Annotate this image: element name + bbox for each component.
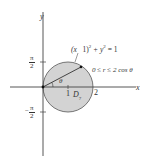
angle-theta-label: θ <box>59 78 62 85</box>
diagram-canvas <box>0 0 150 156</box>
equation-plus-y: + y <box>91 45 103 54</box>
x-tick-label-2: 2 <box>94 89 98 97</box>
y-tick-label-neg-pi-over-2: π 2 <box>29 105 35 120</box>
x-axis-label: x <box>136 84 140 92</box>
circle-equation: (x 1)2 + y2 = 1 <box>71 44 118 53</box>
y-axis-label: y <box>40 13 44 21</box>
region-label-subscript: 7 <box>79 96 82 101</box>
x-tick-label-1: 1 <box>66 90 70 98</box>
equation-prefix: (x <box>71 45 77 54</box>
equation-leader-line <box>75 53 78 62</box>
origin-point <box>42 86 45 89</box>
radial-bound-label: 0 ≤ r ≤ 2 cos θ <box>92 67 133 74</box>
y-tick-label-pi-over-2: π 2 <box>29 55 35 70</box>
region-label: D7 <box>73 91 81 101</box>
radius-endpoint <box>80 66 83 69</box>
equation-rhs: = 1 <box>106 45 118 54</box>
